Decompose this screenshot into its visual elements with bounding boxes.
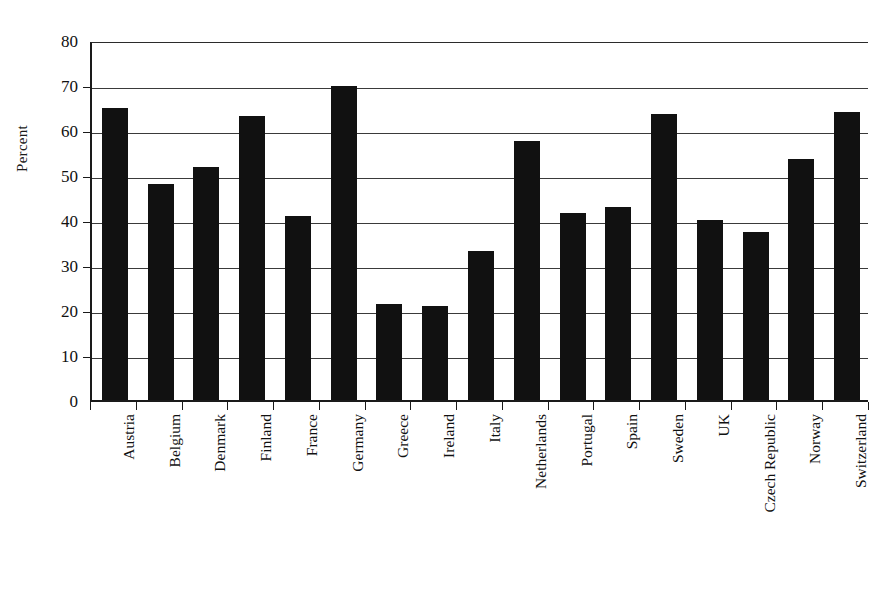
bar (514, 141, 540, 400)
x-tick-label-text: Switzerland (851, 414, 871, 488)
x-tick-label-text: Netherlands (531, 414, 551, 489)
x-tick-label-text: France (302, 414, 322, 456)
y-tick-label-40: 40 (32, 213, 78, 230)
x-tick-label: UK (714, 414, 734, 436)
x-tick-mark (593, 402, 594, 410)
x-tick-label-text: Germany (348, 414, 368, 472)
x-tick-label: Switzerland (851, 414, 871, 488)
x-tick-label: Ireland (439, 414, 459, 458)
x-tick-mark (319, 402, 320, 410)
x-tick-label-text: Portugal (577, 414, 597, 467)
x-tick-label-text: Sweden (668, 414, 688, 463)
bar (788, 159, 814, 400)
y-tick-mark-70 (83, 87, 90, 88)
x-tick-label: Austria (119, 414, 139, 460)
x-tick-mark (502, 402, 503, 410)
x-tick-label: Denmark (210, 414, 230, 472)
x-tick-label: Belgium (165, 414, 185, 467)
x-tick-mark (639, 402, 640, 410)
x-tick-label: Spain (622, 414, 642, 449)
bar (331, 86, 357, 400)
bar (239, 116, 265, 400)
y-axis-title: Percent (14, 42, 36, 172)
x-tick-mark (822, 402, 823, 410)
x-tick-label: France (302, 414, 322, 456)
bar (102, 108, 128, 401)
bar (834, 112, 860, 400)
bar (743, 232, 769, 400)
y-tick-label-10: 10 (32, 348, 78, 365)
x-tick-mark (227, 402, 228, 410)
x-tick-mark (182, 402, 183, 410)
bar (148, 184, 174, 400)
x-tick-mark (136, 402, 137, 410)
x-tick-mark (685, 402, 686, 410)
bar (560, 213, 586, 400)
bar-chart: Percent 01020304050607080 AustriaBelgium… (0, 0, 883, 589)
y-tick-label-70: 70 (32, 78, 78, 95)
x-tick-label: Czech Republic (760, 414, 780, 513)
bar (651, 114, 677, 400)
x-tick-mark (868, 402, 869, 410)
y-tick-label-50: 50 (32, 168, 78, 185)
x-tick-label-text: Denmark (210, 414, 230, 472)
x-tick-mark (548, 402, 549, 410)
x-tick-mark (365, 402, 366, 410)
gridline-70 (92, 88, 868, 89)
y-tick-label-30: 30 (32, 258, 78, 275)
x-tick-mark (90, 402, 91, 410)
x-tick-label-text: Belgium (165, 414, 185, 467)
x-tick-label-text: Ireland (439, 414, 459, 458)
x-tick-label-text: Norway (805, 414, 825, 464)
plot-area (90, 42, 868, 402)
x-tick-label-text: Italy (485, 414, 505, 442)
x-tick-label: Norway (805, 414, 825, 464)
y-tick-label-80: 80 (32, 33, 78, 50)
y-tick-mark-50 (83, 177, 90, 178)
bar (605, 207, 631, 401)
x-tick-mark (776, 402, 777, 410)
bar (697, 220, 723, 400)
x-tick-label-text: UK (714, 414, 734, 436)
bar (285, 216, 311, 400)
y-tick-mark-60 (83, 132, 90, 133)
x-tick-mark (273, 402, 274, 410)
x-tick-label-text: Finland (256, 414, 276, 461)
x-tick-label: Netherlands (531, 414, 551, 489)
y-tick-mark-40 (83, 222, 90, 223)
bar (422, 306, 448, 400)
x-tick-label: Greece (393, 414, 413, 458)
x-tick-mark (456, 402, 457, 410)
x-tick-label-text: Czech Republic (760, 414, 780, 513)
x-tick-mark (731, 402, 732, 410)
y-tick-mark-30 (83, 267, 90, 268)
x-tick-label: Sweden (668, 414, 688, 463)
y-tick-label-0: 0 (32, 393, 78, 410)
x-tick-label-text: Greece (393, 414, 413, 458)
x-tick-label-text: Austria (119, 414, 139, 460)
bar (376, 304, 402, 400)
x-tick-label: Portugal (577, 414, 597, 467)
x-tick-mark (410, 402, 411, 410)
bar (468, 251, 494, 400)
x-tick-label: Finland (256, 414, 276, 461)
x-tick-label: Germany (348, 414, 368, 472)
y-tick-mark-20 (83, 312, 90, 313)
gridline-60 (92, 133, 868, 134)
y-tick-label-60: 60 (32, 123, 78, 140)
x-tick-label: Italy (485, 414, 505, 442)
y-tick-mark-10 (83, 357, 90, 358)
x-tick-label-text: Spain (622, 414, 642, 449)
y-tick-label-20: 20 (32, 303, 78, 320)
bar (193, 167, 219, 400)
